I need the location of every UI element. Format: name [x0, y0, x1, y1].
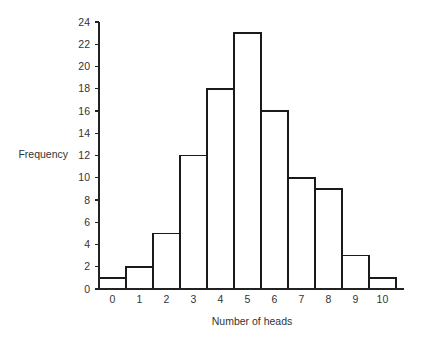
y-tick-label: 10 [78, 171, 90, 183]
bars-group [99, 33, 396, 289]
x-tick-label: 1 [137, 293, 143, 305]
y-tick-label: 0 [84, 283, 90, 295]
x-tick-label: 0 [110, 293, 116, 305]
y-axis-label: Frequency [18, 148, 68, 160]
y-tick-label: 12 [78, 149, 90, 161]
histogram-bar [234, 33, 261, 289]
histogram-bar [126, 267, 153, 289]
x-tick-label: 5 [245, 293, 251, 305]
y-tick-label: 4 [84, 238, 90, 250]
x-tick-label: 8 [325, 293, 331, 305]
histogram-figure: 024681012141618202224 012345678910 Frequ… [0, 0, 437, 342]
x-tick-label: 6 [272, 293, 278, 305]
histogram-bar [369, 278, 396, 289]
y-tick-label: 16 [78, 105, 90, 117]
x-tick-label: 9 [352, 293, 358, 305]
y-tick-label: 14 [78, 127, 90, 139]
histogram-bar [315, 189, 342, 289]
y-tick-label: 20 [78, 60, 90, 72]
y-tick-label: 24 [78, 16, 90, 28]
x-tick-label: 7 [299, 293, 305, 305]
chart-canvas: 024681012141618202224 012345678910 Frequ… [0, 0, 437, 342]
y-tick-label: 2 [84, 260, 90, 272]
y-tick-label: 6 [84, 216, 90, 228]
x-tick-label: 10 [377, 293, 389, 305]
y-tick-label: 22 [78, 38, 90, 50]
histogram-bar [288, 178, 315, 289]
histogram-bar [342, 256, 369, 289]
x-tick-label: 4 [218, 293, 224, 305]
histogram-bar [207, 89, 234, 289]
x-tick-label: 3 [191, 293, 197, 305]
histogram-bar [99, 278, 126, 289]
y-axis-ticks: 024681012141618202224 [78, 16, 99, 295]
histogram-bar [153, 233, 180, 289]
x-tick-label: 2 [164, 293, 170, 305]
x-axis-label: Number of heads [212, 315, 293, 327]
x-axis-ticks: 012345678910 [110, 293, 389, 305]
histogram-bar [261, 111, 288, 289]
y-tick-label: 18 [78, 82, 90, 94]
histogram-bar [180, 156, 207, 290]
y-tick-label: 8 [84, 194, 90, 206]
